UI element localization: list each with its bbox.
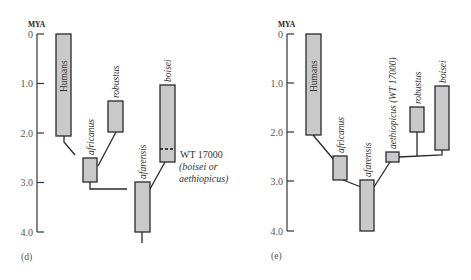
connector-robustus xyxy=(98,132,116,166)
taxon-label-afarensis: afarensis xyxy=(138,144,148,179)
connector-humans xyxy=(64,136,75,155)
tick-label: 1.0 xyxy=(21,78,34,89)
taxon-label-humans: Humans xyxy=(59,60,69,92)
taxon-label-africanus: africanus xyxy=(336,117,346,153)
panel-label-e: (e) xyxy=(271,251,282,262)
taxon-box-aethiopicus xyxy=(386,152,399,162)
connector-robust-clade xyxy=(399,150,442,157)
tick-label: 3.0 xyxy=(21,177,34,188)
taxon-label-robustus: robustus xyxy=(413,71,423,104)
connector-africanus-afarensis xyxy=(343,180,361,187)
taxon-label-robustus: robustus xyxy=(111,65,121,98)
axis-title: MYA xyxy=(278,20,296,29)
tick-label: 3.0 xyxy=(271,176,284,187)
connector-afarensis-aethiopicus xyxy=(374,162,390,187)
tick-label: 1.0 xyxy=(271,78,284,89)
taxon-box-robustus xyxy=(410,107,424,132)
tick-label: 2.0 xyxy=(271,127,284,138)
taxon-label-aethiopicus: aethiopicus (WT 17000) xyxy=(388,57,399,149)
taxon-label-humans: Humans xyxy=(309,60,319,92)
note-wt17000: WT 17000 xyxy=(180,149,223,160)
tick-label: 4.0 xyxy=(21,227,34,238)
panel-d: MYA 0 1.0 2.0 3.0 4.0 Humans africanus r… xyxy=(21,20,230,263)
axis-title: MYA xyxy=(28,20,46,29)
taxon-box-afarensis xyxy=(135,182,150,232)
taxon-label-afarensis: afarensis xyxy=(363,142,373,177)
taxon-box-robustus xyxy=(108,101,123,132)
taxon-box-africanus xyxy=(83,158,97,182)
taxon-box-africanus xyxy=(333,156,347,180)
connector-africanus xyxy=(90,182,127,189)
connector-humans-africanus xyxy=(313,135,334,160)
taxon-box-afarensis xyxy=(360,180,374,231)
note-line3: aethiopicus) xyxy=(179,173,229,185)
taxon-label-boisei: boisei xyxy=(163,59,173,82)
tick-label: 0 xyxy=(28,29,33,40)
phylogeny-figure: MYA 0 1.0 2.0 3.0 4.0 Humans africanus r… xyxy=(0,0,471,280)
taxon-box-boisei xyxy=(435,86,449,150)
panel-label-d: (d) xyxy=(21,252,32,263)
panel-e: MYA 0 1.0 2.0 3.0 4.0 Humans africanus a… xyxy=(271,20,450,262)
taxon-label-africanus: africanus xyxy=(86,119,96,155)
connector-boisei xyxy=(150,162,165,189)
taxon-box-boisei xyxy=(160,85,175,162)
tick-label: 4.0 xyxy=(271,226,284,237)
tick-label: 2.0 xyxy=(21,128,34,139)
note-line2: (boisei or xyxy=(179,161,218,173)
tick-label: 0 xyxy=(278,29,283,40)
taxon-label-boisei: boisei xyxy=(438,60,448,83)
